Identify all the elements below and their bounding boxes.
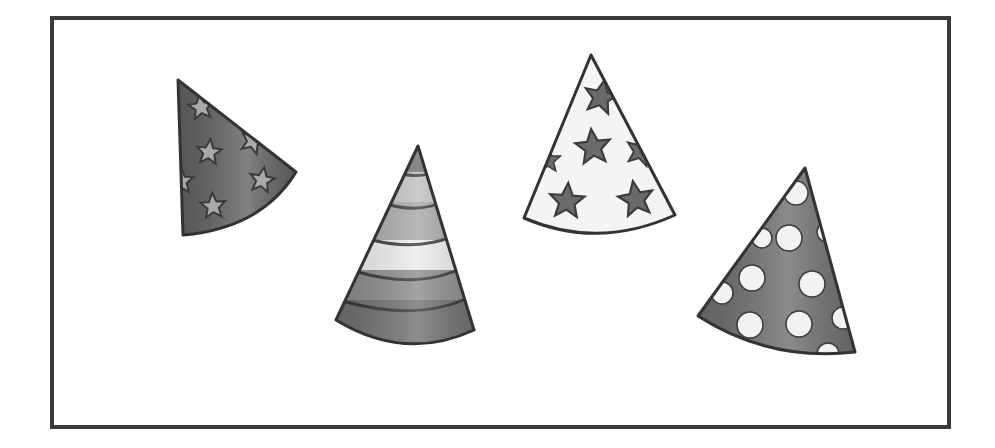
white-star-party-hat (524, 55, 675, 233)
polka-dot-party-hat (690, 160, 870, 370)
striped-party-hat (330, 140, 490, 370)
dark-star-party-hat (169, 70, 310, 250)
party-hats-scene (0, 0, 995, 448)
